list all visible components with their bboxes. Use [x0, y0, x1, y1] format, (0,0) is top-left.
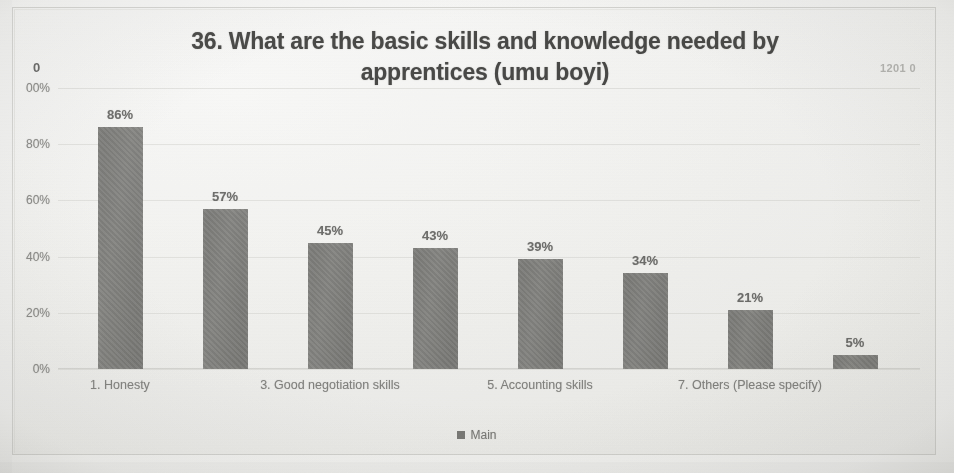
y-axis-tick-label: 60%	[26, 193, 50, 207]
legend-square-marker-icon	[457, 431, 465, 439]
x-axis-tick-label: 3. Good negotiation skills	[260, 378, 400, 392]
bar[interactable]	[308, 243, 353, 369]
scan-bottom-edge-smudge	[0, 462, 954, 473]
y-axis-tick-label: 20%	[26, 306, 50, 320]
bar[interactable]	[98, 127, 143, 369]
gridline-0	[58, 369, 920, 370]
bar-value-label: 86%	[90, 107, 150, 122]
gridline-40	[58, 257, 920, 258]
bar-value-label: 43%	[405, 228, 465, 243]
x-axis-baseline	[58, 368, 920, 369]
bar[interactable]	[728, 310, 773, 369]
bar-value-label: 57%	[195, 189, 255, 204]
chart-title-line-1: 36. What are the basic skills and knowle…	[140, 26, 830, 57]
bar-value-label: 21%	[720, 290, 780, 305]
y-axis-tick-label: 40%	[26, 250, 50, 264]
x-axis-tick-label: 5. Accounting skills	[487, 378, 593, 392]
x-axis-tick-label: 1. Honesty	[90, 378, 150, 392]
top-right-page-mark: 1201 0	[880, 62, 916, 74]
gridline-80	[58, 144, 920, 145]
chart-legend: Main	[0, 428, 954, 442]
y-axis-tick-label: 0%	[33, 362, 50, 376]
plot-area: 00%80%60%40%20%0%86%57%45%43%39%34%21%5%	[58, 88, 920, 369]
chart-title-line-2: apprentices (umu boyi)	[140, 57, 830, 88]
bar-value-label: 39%	[510, 239, 570, 254]
top-left-page-mark: 0	[33, 60, 40, 75]
bar[interactable]	[833, 355, 878, 369]
gridline-100	[58, 88, 920, 89]
scanned-chart-screenshot: 36. What are the basic skills and knowle…	[0, 0, 954, 473]
y-axis-tick-label: 80%	[26, 137, 50, 151]
gridline-60	[58, 200, 920, 201]
bar-value-label: 45%	[300, 223, 360, 238]
bar-value-label: 5%	[825, 335, 885, 350]
chart-title: 36. What are the basic skills and knowle…	[140, 26, 830, 88]
scan-left-edge-smudge	[0, 0, 12, 473]
gridline-20	[58, 313, 920, 314]
bar-value-label: 34%	[615, 253, 675, 268]
y-axis-tick-label: 00%	[26, 81, 50, 95]
bar[interactable]	[623, 273, 668, 369]
bar[interactable]	[203, 209, 248, 369]
x-axis-tick-label: 7. Others (Please specify)	[678, 378, 822, 392]
bar[interactable]	[413, 248, 458, 369]
bar[interactable]	[518, 259, 563, 369]
legend-entry-label: Main	[470, 428, 496, 442]
